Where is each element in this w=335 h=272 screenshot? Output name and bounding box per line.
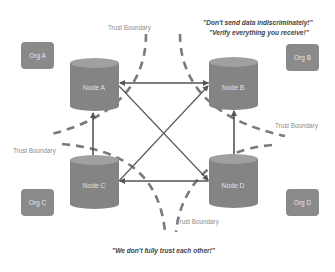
org-a-label: Org A — [29, 52, 46, 59]
trust-boundary-label-top: Trust Boundary — [108, 24, 151, 31]
node-c-label: Node C — [82, 182, 105, 189]
org-c-label: Org C — [29, 199, 46, 206]
org-d-label: Org D — [294, 199, 311, 206]
quote-bottom: "We don't fully trust each other!" — [112, 247, 215, 254]
trust-boundary-diagram: Node A Node B Node C Node D Org A Org B … — [0, 0, 335, 272]
node-d-label: Node D — [221, 182, 244, 189]
org-b-box: Org B — [286, 44, 319, 71]
org-b-label: Org B — [294, 54, 311, 61]
quote-top-line1: "Don't send data indiscriminately!" — [203, 19, 313, 26]
org-a-box: Org A — [21, 42, 54, 69]
node-a-label: Node A — [83, 84, 105, 91]
diagram-graphics — [0, 0, 335, 272]
trust-boundary-label-right: Trust Boundary — [275, 122, 318, 129]
org-d-box: Org D — [286, 189, 319, 216]
quote-top-line2: "Verify everything you receive!" — [209, 29, 309, 36]
trust-boundary-label-left: Trust Boundary — [13, 147, 56, 154]
node-b-label: Node B — [222, 84, 245, 91]
org-c-box: Org C — [21, 189, 54, 216]
trust-boundary-label-bottom: Trust Boundary — [176, 218, 219, 225]
